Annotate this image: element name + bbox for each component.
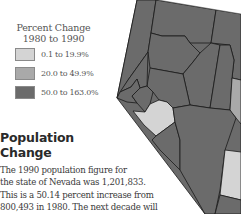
legend-item-high: 50.0 to 163.0% — [6, 83, 116, 101]
population-change-page: Percent Change 1980 to 1990 0.1 to 19.9%… — [0, 0, 241, 214]
legend-swatch-mid — [15, 67, 35, 80]
section-heading: Population Change — [0, 130, 74, 160]
legend-swatch-low — [15, 48, 35, 61]
legend-title-line2: 1980 to 1990 — [6, 33, 101, 44]
body-line-3: This is a 50.14 percent increase from — [0, 189, 175, 201]
body-line-1: The 1990 population figure for — [0, 164, 175, 176]
body-line-2: the state of Nevada was 1,201,833. — [0, 176, 175, 188]
map-legend: Percent Change 1980 to 1990 0.1 to 19.9%… — [6, 22, 116, 101]
legend-title: Percent Change 1980 to 1990 — [6, 22, 101, 44]
legend-item-mid: 20.0 to 49.9% — [6, 64, 116, 82]
heading-line2: Change — [0, 145, 74, 160]
body-line-4: 800,493 in 1980. The next decade will — [0, 201, 175, 213]
legend-swatch-high — [15, 86, 35, 99]
legend-label-mid: 20.0 to 49.9% — [41, 69, 93, 78]
legend-title-line1: Percent Change — [6, 22, 101, 33]
legend-label-high: 50.0 to 163.0% — [41, 88, 98, 97]
legend-item-low: 0.1 to 19.9% — [6, 45, 116, 63]
heading-line1: Population — [0, 130, 74, 145]
body-paragraph: The 1990 population figure for the state… — [0, 164, 175, 214]
legend-label-low: 0.1 to 19.9% — [41, 50, 89, 59]
